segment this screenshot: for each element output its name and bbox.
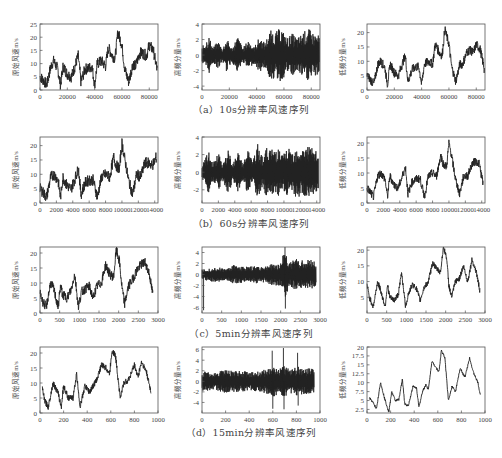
y-tick-label: 0 [361,87,365,95]
x-tick-label: 500 [382,316,393,323]
x-tick-label: 1000 [478,416,492,423]
y-tick-label: 5 [361,72,365,80]
x-tick-label: 400 [82,416,93,423]
x-tick-label: 400 [244,416,255,423]
y-tick-label: -6 [193,304,199,312]
x-tick-label: 500 [55,316,66,323]
x-tick-label: 1500 [92,316,106,323]
y-tick-label: 2 [196,36,200,44]
x-tick-label: 1000 [313,416,327,423]
x-tick-label: 0 [365,206,369,213]
y-axis-label: 原始风速m/s [11,151,20,189]
y-axis-label: 高频分量m/s [173,38,182,76]
x-tick-label: 500 [217,316,228,323]
x-tick-label: 80000 [303,93,321,100]
y-tick-label: 10 [357,58,365,66]
y-tick-label: 10 [357,278,365,286]
caption-c: （c）5min分辨率风速序列 [0,326,502,340]
y-tick-label: 10 [357,379,365,387]
x-tick-label: 2000 [274,316,288,323]
plot-a-high-freq: -4-2024020000400006000080000高频分量m/s [170,20,328,112]
x-tick-label: 1500 [419,316,433,323]
x-tick-label: 4000 [66,206,80,213]
caption-d: （d）15min分辨率风速序列 [0,425,502,439]
y-tick-label: 0 [196,169,200,177]
y-tick-label: 15 [357,361,365,369]
x-tick-label: 0 [200,93,204,100]
x-tick-label: 10000 [440,206,458,213]
plot-frame [367,24,485,90]
y-tick-label: -2 [193,67,199,75]
y-tick-label: 20 [30,142,38,150]
y-tick-label: -4 [193,399,199,407]
y-tick-label: 15 [30,265,38,273]
chart-svg: 0510152002000400060008000100001200014000… [335,133,493,225]
plot-c-original: 05101520050010001500200025003000原始风速m/s [8,243,166,335]
y-tick-label: 2.5 [355,406,364,414]
y-tick-label: 0 [34,87,38,95]
y-tick-label: 20 [357,140,365,148]
x-tick-label: 1000 [151,416,165,423]
y-axis-label: 原始风速m/s [11,38,20,76]
data-line [367,140,483,200]
data-line [369,350,480,412]
y-tick-label: 2 [196,260,200,268]
y-tick-label: 5 [361,185,365,193]
y-tick-label: -2 [193,186,199,194]
y-tick-label: 0 [34,310,38,318]
x-tick-label: 60000 [440,93,458,100]
x-tick-label: 2000 [50,206,64,213]
x-tick-label: 0 [200,206,204,213]
y-tick-label: 15 [357,262,365,270]
x-tick-label: 3000 [478,316,492,323]
x-tick-label: 12000 [130,206,148,213]
x-tick-label: 4000 [228,206,242,213]
y-tick-label: 5 [361,294,365,302]
y-tick-label: 20 [357,344,365,352]
data-line [40,31,158,90]
x-tick-label: 1500 [254,316,268,323]
x-tick-label: 40000 [248,93,266,100]
y-tick-label: 15 [357,155,365,163]
x-tick-label: 2000 [439,316,453,323]
x-tick-label: 2000 [112,316,126,323]
x-tick-label: 0 [365,416,369,423]
y-tick-label: -4 [193,293,199,301]
data-line [40,247,153,310]
y-tick-label: -4 [193,83,199,91]
plot-frame [367,347,485,413]
y-axis-label: 低频分量m/s [338,38,347,76]
y-tick-label: 15 [30,156,38,164]
x-tick-label: 2500 [132,316,146,323]
x-tick-label: 3000 [151,316,165,323]
chart-svg: -202402000400060008000100001200014000高频分… [170,133,328,225]
plot-b-low-freq: 0510152002000400060008000100001200014000… [335,133,493,225]
plot-a-original: 0510152025020000400006000080000原始风速m/s [8,20,166,112]
chart-svg: 05101520050010001500200025003000原始风速m/s [8,243,166,335]
x-tick-label: 14000 [308,206,326,213]
plot-c-high-freq: -6-4-2024050010001500200025003000高频分量m/s [170,243,328,335]
y-tick-label: 10 [357,170,365,178]
y-tick-label: 10 [30,60,38,68]
x-tick-label: 8000 [426,206,440,213]
y-tick-label: 6 [196,346,200,354]
y-tick-label: 4 [196,357,200,365]
plot-d-high-freq: -4-2024602004006008001000高频分量m/s [170,343,328,435]
plot-c-low-freq: 5101520050010001500200025003000低频分量m/s [335,243,493,335]
plot-d-low-freq: 2.557.51012.51517.52002004006008001000低频… [335,343,493,435]
x-tick-label: 800 [129,416,140,423]
caption-a: （a）10s分辨率风速序列 [0,102,502,116]
x-tick-label: 600 [433,416,444,423]
caption-b: （b）60s分辨率风速序列 [0,216,502,230]
x-tick-label: 0 [38,416,42,423]
y-tick-label: 7.5 [355,388,364,396]
x-tick-label: 6000 [244,206,258,213]
plot-frame [40,347,158,413]
y-tick-label: 15 [357,43,365,51]
x-tick-label: 200 [220,416,231,423]
y-tick-label: 20 [357,29,365,37]
data-line [40,139,156,201]
x-tick-label: 14000 [146,206,164,213]
x-tick-label: 12000 [292,206,310,213]
x-tick-label: 0 [365,316,369,323]
